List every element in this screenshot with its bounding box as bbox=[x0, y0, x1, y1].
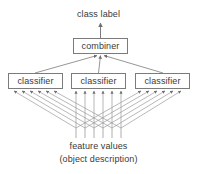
features-to-classifier-right-arrows bbox=[76, 91, 181, 128]
classifier-node-right: classifier bbox=[135, 73, 190, 89]
combiner-node: combiner bbox=[73, 38, 128, 54]
features-to-classifier-middle-arrows bbox=[76, 91, 121, 128]
ensemble-classifier-diagram: class label combiner classifier classifi… bbox=[0, 0, 197, 174]
classifier-node-middle: classifier bbox=[71, 73, 126, 89]
class-label-text: class label bbox=[0, 9, 197, 20]
classifiers-to-combiner-arrows bbox=[35, 56, 163, 74]
object-description-caption: (object description) bbox=[0, 154, 197, 165]
features-to-classifier-left-arrows bbox=[14, 91, 121, 128]
feature-value-stems bbox=[76, 128, 121, 138]
classifier-node-left: classifier bbox=[8, 73, 63, 89]
feature-values-caption: feature values bbox=[0, 141, 197, 152]
